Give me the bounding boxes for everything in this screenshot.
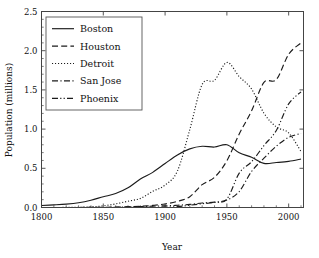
series-line-san-jose <box>42 133 302 207</box>
x-tick-label: 1850 <box>92 212 114 222</box>
chart-legend: BostonHoustonDetroitSan JosePhoenix <box>46 17 142 110</box>
legend-label-san-jose: San Jose <box>80 75 122 86</box>
x-tick-label: 1800 <box>31 212 53 222</box>
legend-label-phoenix: Phoenix <box>80 93 119 104</box>
y-axis-title: Population (millions) <box>4 63 14 157</box>
x-tick-label: 1900 <box>154 212 176 222</box>
x-tick-label: 2000 <box>278 212 300 222</box>
legend-label-detroit: Detroit <box>80 58 114 69</box>
y-tick-label: 0.0 <box>24 203 38 213</box>
x-tick-label: 1950 <box>216 212 238 222</box>
series-line-boston <box>42 145 302 206</box>
chart-canvas: 180018501900195020000.00.51.01.52.02.5 Y… <box>0 0 319 258</box>
population-line-chart-figure: 180018501900195020000.00.51.01.52.02.5 Y… <box>0 0 319 258</box>
y-tick-label: 2.5 <box>24 7 38 17</box>
y-tick-label: 1.5 <box>24 85 38 95</box>
legend-label-houston: Houston <box>80 41 121 52</box>
y-tick-label: 2.0 <box>24 46 38 56</box>
y-tick-label: 1.0 <box>24 124 38 134</box>
legend-label-boston: Boston <box>80 23 113 34</box>
y-tick-label: 0.5 <box>24 163 38 173</box>
x-axis-title: Year <box>161 242 183 252</box>
